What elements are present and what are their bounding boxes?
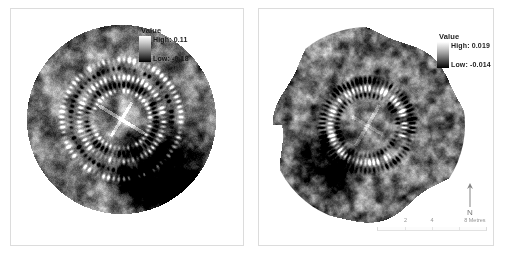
survey-plot-left-panel: Value High: 0.11 Low: -0.18 [10,8,244,246]
north-arrow-icon: N [461,181,479,217]
legend-right-low-label: Low: -0.014 [451,61,491,68]
scale-bar: 0 2 4 8 Metres [377,217,487,239]
scale-bar-end-label: 8 Metres [464,217,485,223]
legend-right: Value High: 0.019 Low: -0.014 [437,33,491,68]
legend-right-high-label: High: 0.019 [451,42,491,49]
survey-raster-right [269,27,465,223]
legend-left-title: Value [141,27,189,35]
north-arrow-label: N [467,208,473,217]
color-ramp-icon [437,42,449,68]
legend-left: Value High: 0.11 Low: -0.18 [139,27,189,62]
legend-right-labels: High: 0.019 Low: -0.014 [449,42,491,68]
scale-tick-0: 0 [378,217,381,223]
scale-tick-1: 2 [404,217,407,223]
survey-plot-right-panel: Value High: 0.019 Low: -0.014 N [258,8,494,246]
legend-left-high-label: High: 0.11 [153,36,189,43]
legend-left-body: High: 0.11 Low: -0.18 [139,36,189,62]
scale-bar-line [377,227,487,231]
figure-container: Value High: 0.11 Low: -0.18 Value High: … [0,0,506,261]
legend-left-labels: High: 0.11 Low: -0.18 [151,36,189,62]
legend-left-low-label: Low: -0.18 [153,55,189,62]
legend-right-title: Value [439,33,491,41]
scale-tick-2: 4 [430,217,433,223]
legend-right-body: High: 0.019 Low: -0.014 [437,42,491,68]
scale-bar-ticks: 0 2 4 8 Metres [377,217,487,226]
color-ramp-icon [139,36,151,62]
